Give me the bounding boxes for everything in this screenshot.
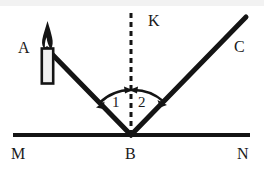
reflected-ray-line [131, 17, 246, 135]
label-M: M [11, 146, 25, 162]
label-B: B [125, 146, 136, 162]
angle-2-arc-group [130, 87, 168, 108]
label-C: C [234, 39, 245, 55]
candle-flame-icon [42, 21, 53, 50]
reflection-diagram-figure: A K C M B N 1 2 [0, 0, 264, 171]
candle-group [42, 21, 53, 84]
label-K: K [148, 13, 160, 29]
label-angle-1: 1 [112, 95, 120, 110]
label-angle-2: 2 [138, 95, 146, 110]
label-N: N [237, 146, 249, 162]
label-A: A [18, 40, 30, 56]
candle-body [42, 49, 53, 84]
